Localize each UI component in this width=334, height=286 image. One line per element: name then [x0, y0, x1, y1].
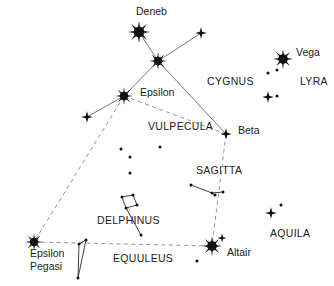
constellation-label-equuleus: EQUULEUS [113, 252, 173, 264]
star-marker [196, 260, 199, 263]
constellation-label-lyra: LYRA [300, 75, 328, 87]
constellation-label-sagitta: SAGITTA [196, 164, 242, 176]
star-marker [77, 277, 80, 280]
star-marker [129, 156, 132, 159]
star-marker [214, 194, 217, 197]
star-marker [136, 204, 139, 207]
star-marker [129, 172, 132, 175]
star-marker [85, 239, 88, 242]
star-label: Vega [296, 46, 320, 58]
star-marker [115, 87, 133, 105]
star-marker [276, 69, 279, 72]
star-marker [78, 243, 81, 246]
star-marker [128, 21, 151, 44]
star-marker [267, 72, 270, 75]
star-chart: DenebVegaEpsilonBetaAltairEpsilonPegasiC… [0, 0, 334, 286]
star-label: Epsilon [30, 247, 65, 259]
constellation-label-delphinus: DELPHINUS [97, 214, 160, 226]
star-marker [132, 194, 135, 197]
star-label: Altair [227, 246, 251, 258]
star-marker [211, 192, 214, 195]
chart-background [0, 0, 334, 286]
star-label: Pegasi [30, 260, 62, 272]
star-marker [121, 196, 124, 199]
star-marker [120, 148, 123, 151]
star-label: Epsilon [140, 86, 175, 98]
star-marker [140, 234, 143, 237]
star-marker [280, 204, 283, 207]
star-chart-canvas: DenebVegaEpsilonBetaAltairEpsilonPegasiC… [0, 0, 334, 286]
star-marker [222, 191, 225, 194]
star-marker [190, 184, 193, 187]
constellation-label-aquila: AQUILA [270, 227, 310, 239]
star-marker [202, 236, 222, 256]
star-marker [125, 207, 128, 210]
star-marker [159, 146, 162, 149]
constellation-label-vulpecula: VULPECULA [148, 120, 213, 132]
star-label: Beta [238, 124, 260, 136]
constellation-label-cygnus: CYGNUS [207, 75, 254, 87]
star-marker [276, 95, 279, 98]
star-label: Deneb [136, 5, 167, 17]
star-marker [273, 49, 293, 69]
star-marker [149, 52, 167, 70]
